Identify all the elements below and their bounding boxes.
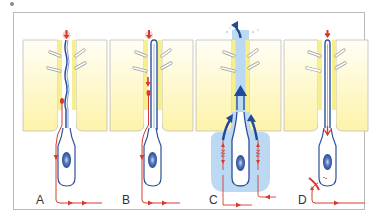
panel-label-c: C xyxy=(209,193,218,207)
diagram-canvas xyxy=(0,0,385,224)
panel-label-b: B xyxy=(122,193,130,207)
panel-c xyxy=(196,21,281,208)
panel-a xyxy=(23,30,107,206)
panel-label-a: A xyxy=(36,193,44,207)
panel-label-d: D xyxy=(298,193,307,207)
panel-d xyxy=(284,30,368,206)
panel-b xyxy=(110,30,193,206)
